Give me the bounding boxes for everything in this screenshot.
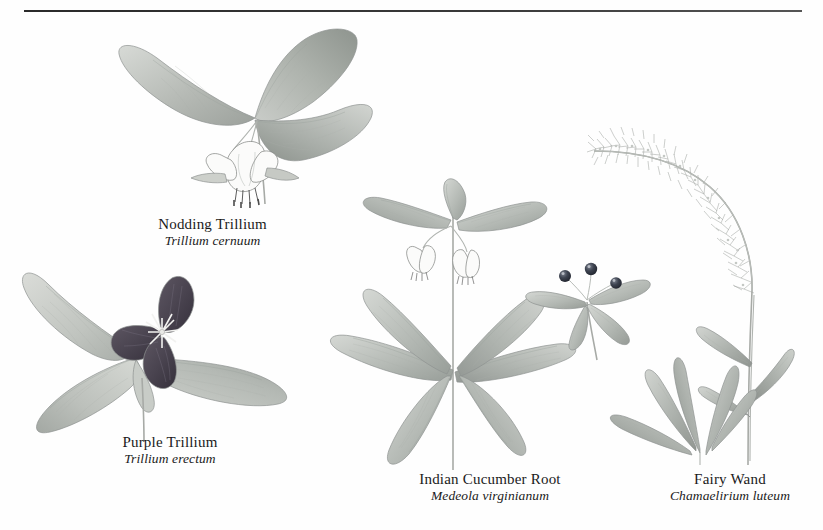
- scientific-name-indian-cucumber-root: Medeola virginianum: [400, 488, 580, 504]
- plant-illustration-purple-trillium: [12, 240, 302, 445]
- illustration-page: Nodding Trillium Trillium cernuum: [0, 0, 823, 530]
- label-purple-trillium: Purple Trillium Trillium erectum: [110, 433, 230, 468]
- scientific-name-fairy-wand: Chamaelirium luteum: [650, 488, 810, 504]
- common-name-indian-cucumber-root: Indian Cucumber Root: [400, 470, 580, 488]
- plant-illustration-fairy-wand: [560, 95, 810, 465]
- label-indian-cucumber-root: Indian Cucumber Root Medeola virginianum: [400, 470, 580, 505]
- scientific-name-purple-trillium: Trillium erectum: [110, 451, 230, 467]
- common-name-nodding-trillium: Nodding Trillium: [150, 215, 275, 233]
- common-name-purple-trillium: Purple Trillium: [110, 433, 230, 451]
- label-fairy-wand: Fairy Wand Chamaelirium luteum: [650, 470, 810, 505]
- top-rule-divider: [24, 10, 802, 12]
- common-name-fairy-wand: Fairy Wand: [650, 470, 810, 488]
